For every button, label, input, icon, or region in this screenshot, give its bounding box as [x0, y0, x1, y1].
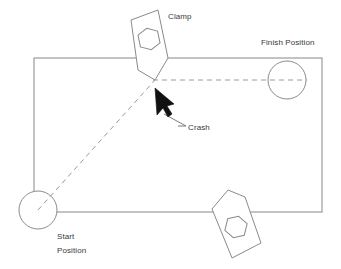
bottom-clamp-body [212, 190, 261, 258]
crash-label: Crash [188, 122, 210, 133]
start-position-label: Start Position [57, 231, 86, 256]
top-clamp-body [131, 10, 168, 80]
start-position-label-line2: Position [57, 245, 86, 256]
crash-cursor-arrow-icon [155, 88, 174, 117]
start-position-label-line1: Start [57, 232, 74, 241]
finish-position-label: Finish Position [261, 37, 315, 48]
clamp-label: Clamp [168, 11, 192, 22]
diagram-canvas: Clamp Finish Position Crash Start Positi… [0, 0, 341, 269]
dashed-diagonal-path [38, 80, 155, 210]
